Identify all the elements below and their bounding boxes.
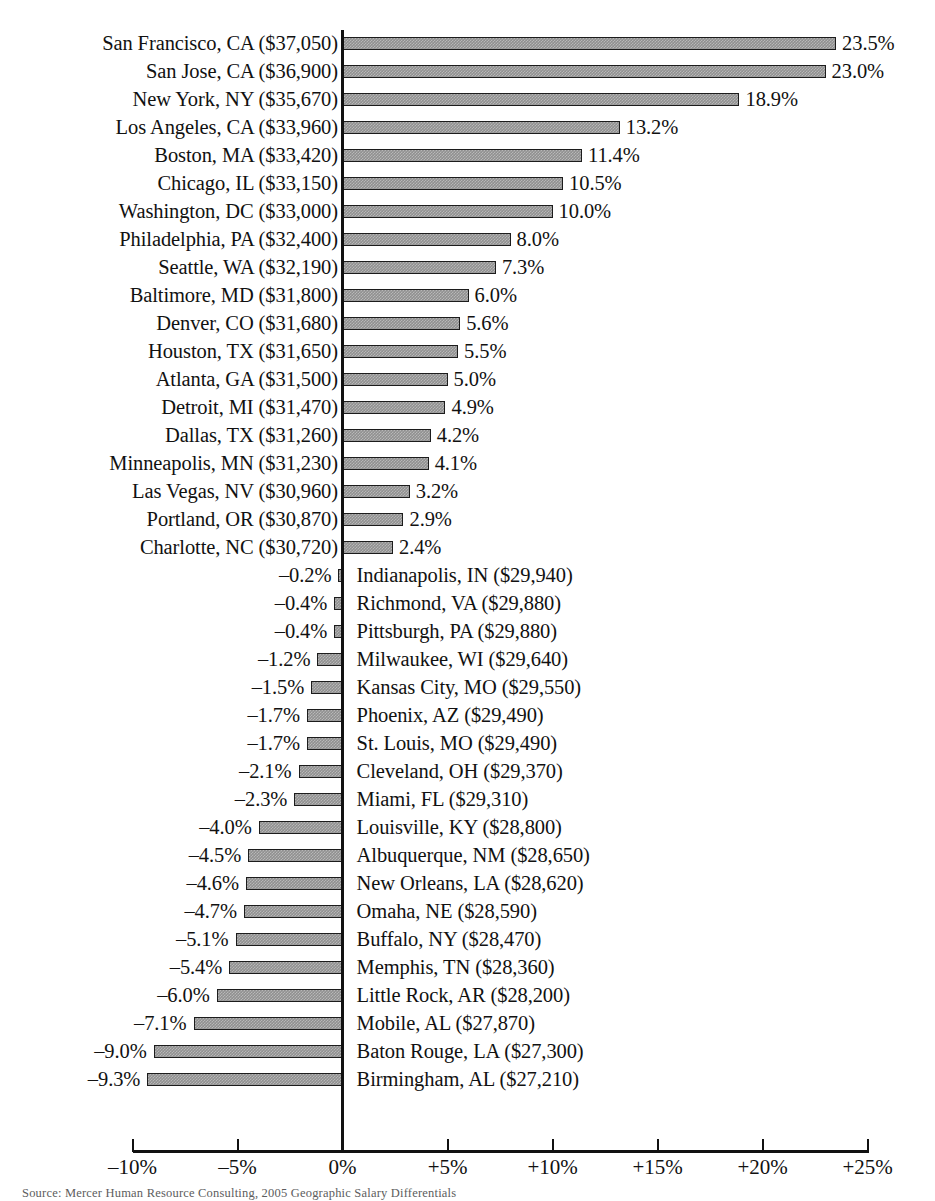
bar — [343, 205, 553, 218]
bar-row: –4.0%Louisville, KY ($28,800) — [0, 814, 935, 842]
value-label: 2.4% — [399, 534, 441, 562]
bar — [317, 653, 342, 666]
category-label: Birmingham, AL ($27,210) — [357, 1066, 579, 1094]
bar — [343, 261, 496, 274]
x-axis-tick-label: +25% — [808, 1155, 928, 1180]
category-label: Las Vegas, NV ($30,960) — [132, 478, 338, 506]
bar — [311, 681, 343, 694]
bar — [147, 1073, 342, 1086]
value-label: –2.3% — [235, 786, 287, 814]
category-label: Chicago, IL ($33,150) — [158, 170, 338, 198]
x-axis-tick-label: +10% — [493, 1155, 613, 1180]
bar — [343, 317, 461, 330]
bar-row: –0.4%Pittsburgh, PA ($29,880) — [0, 618, 935, 646]
category-label: Pittsburgh, PA ($29,880) — [357, 618, 557, 646]
bar — [343, 65, 826, 78]
category-label: Milwaukee, WI ($29,640) — [357, 646, 568, 674]
value-label: 23.0% — [832, 58, 884, 86]
bar — [229, 961, 342, 974]
x-axis-tick-label: +20% — [703, 1155, 823, 1180]
bar — [343, 149, 582, 162]
bar-row: Boston, MA ($33,420)11.4% — [0, 142, 935, 170]
bar — [343, 485, 410, 498]
zero-axis-line — [341, 30, 344, 1152]
category-label: Washington, DC ($33,000) — [119, 198, 338, 226]
category-label: Boston, MA ($33,420) — [154, 142, 338, 170]
bar-row: Houston, TX ($31,650)5.5% — [0, 338, 935, 366]
bar-row: Portland, OR ($30,870)2.9% — [0, 506, 935, 534]
category-label: Albuquerque, NM ($28,650) — [357, 842, 590, 870]
category-label: Portland, OR ($30,870) — [147, 506, 338, 534]
category-label: Phoenix, AZ ($29,490) — [357, 702, 544, 730]
bar-row: –1.2%Milwaukee, WI ($29,640) — [0, 646, 935, 674]
value-label: 11.4% — [588, 142, 640, 170]
bar — [244, 905, 343, 918]
category-label: San Jose, CA ($36,900) — [146, 58, 338, 86]
bar-row: –4.5%Albuquerque, NM ($28,650) — [0, 842, 935, 870]
value-label: 5.0% — [454, 366, 496, 394]
value-label: –4.6% — [187, 870, 239, 898]
source-note: Source: Mercer Human Resource Consulting… — [22, 1186, 456, 1201]
x-axis-tick — [237, 1139, 239, 1152]
category-label: Buffalo, NY ($28,470) — [357, 926, 542, 954]
category-label: Louisville, KY ($28,800) — [357, 814, 562, 842]
x-axis-tick — [867, 1139, 869, 1152]
bar-row: –1.7%St. Louis, MO ($29,490) — [0, 730, 935, 758]
bar-row: –1.7%Phoenix, AZ ($29,490) — [0, 702, 935, 730]
bar-row: Atlanta, GA ($31,500)5.0% — [0, 366, 935, 394]
x-axis-baseline — [133, 1150, 869, 1153]
value-label: 6.0% — [475, 282, 517, 310]
x-axis-tick-label: 0% — [283, 1155, 403, 1180]
bar — [299, 765, 343, 778]
bar-row: –0.4%Richmond, VA ($29,880) — [0, 590, 935, 618]
x-axis-tick-label: +5% — [388, 1155, 508, 1180]
category-label: Kansas City, MO ($29,550) — [357, 674, 582, 702]
category-label: Philadelphia, PA ($32,400) — [119, 226, 338, 254]
category-label: Baton Rouge, LA ($27,300) — [357, 1038, 584, 1066]
bar-row: Seattle, WA ($32,190)7.3% — [0, 254, 935, 282]
value-label: 2.9% — [410, 506, 452, 534]
bar-row: Dallas, TX ($31,260)4.2% — [0, 422, 935, 450]
value-label: –1.7% — [247, 702, 299, 730]
category-label: Omaha, NE ($28,590) — [357, 898, 537, 926]
value-label: –1.5% — [252, 674, 304, 702]
bar — [343, 289, 469, 302]
bar-row: –1.5%Kansas City, MO ($29,550) — [0, 674, 935, 702]
bar-row: Minneapolis, MN ($31,230)4.1% — [0, 450, 935, 478]
bar — [294, 793, 342, 806]
x-axis-tick-label: +15% — [598, 1155, 718, 1180]
bar — [246, 877, 343, 890]
category-label: Seattle, WA ($32,190) — [158, 254, 338, 282]
bar-row: Los Angeles, CA ($33,960)13.2% — [0, 114, 935, 142]
category-label: New York, NY ($35,670) — [133, 86, 338, 114]
bar — [343, 177, 564, 190]
bar-row: Charlotte, NC ($30,720)2.4% — [0, 534, 935, 562]
bar-row: –2.3%Miami, FL ($29,310) — [0, 786, 935, 814]
bar — [307, 709, 343, 722]
value-label: –2.1% — [239, 758, 291, 786]
value-label: 5.6% — [466, 310, 508, 338]
bar-row: Washington, DC ($33,000)10.0% — [0, 198, 935, 226]
category-label: Los Angeles, CA ($33,960) — [116, 114, 338, 142]
value-label: –9.0% — [94, 1038, 146, 1066]
bar — [343, 373, 448, 386]
x-axis-tick — [657, 1139, 659, 1152]
value-label: –5.4% — [170, 954, 222, 982]
value-label: 13.2% — [626, 114, 678, 142]
bar — [343, 457, 429, 470]
bar-row: –9.0%Baton Rouge, LA ($27,300) — [0, 1038, 935, 1066]
bar-row: Philadelphia, PA ($32,400)8.0% — [0, 226, 935, 254]
bar — [343, 233, 511, 246]
bar-row: –5.4%Memphis, TN ($28,360) — [0, 954, 935, 982]
value-label: –4.7% — [184, 898, 236, 926]
bar — [248, 849, 343, 862]
category-label: St. Louis, MO ($29,490) — [357, 730, 557, 758]
value-label: –0.2% — [279, 562, 331, 590]
bar — [259, 821, 343, 834]
value-label: 10.0% — [559, 198, 611, 226]
bar — [343, 541, 393, 554]
value-label: –4.5% — [189, 842, 241, 870]
bar-row: –4.7%Omaha, NE ($28,590) — [0, 898, 935, 926]
value-label: 4.2% — [437, 422, 479, 450]
value-label: –4.0% — [199, 814, 251, 842]
